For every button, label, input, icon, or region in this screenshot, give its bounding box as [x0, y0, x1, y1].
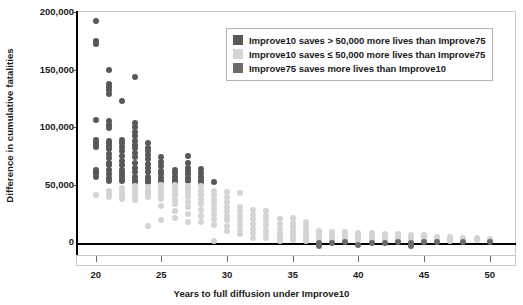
data-point [395, 239, 401, 245]
data-point [421, 239, 427, 245]
data-point [185, 153, 191, 159]
data-point [382, 240, 388, 246]
data-point [119, 98, 125, 104]
data-point [369, 240, 375, 246]
chart-legend: Improve10 saves > 50,000 more lives than… [226, 28, 493, 81]
data-point [158, 217, 164, 223]
x-axis-tick-mark [227, 256, 228, 262]
data-point [237, 190, 243, 196]
x-axis-tick-label: 30 [222, 269, 233, 280]
data-point [211, 238, 217, 244]
x-axis-tick-label: 25 [156, 269, 167, 280]
data-point [408, 240, 414, 246]
legend-item: Improve10 saves ≤ 50,000 more lives than… [233, 47, 485, 61]
data-point [316, 240, 322, 246]
data-point [277, 238, 283, 244]
y-axis-title-text: Difference in cumulative fatalities [4, 48, 15, 203]
data-point [460, 239, 466, 245]
y-axis-tick-label: 150,000 [22, 63, 74, 74]
legend-item-label: Improve10 saves > 50,000 more lives than… [249, 35, 485, 46]
data-point [132, 74, 138, 80]
data-point [119, 196, 125, 202]
data-point [329, 240, 335, 246]
data-point [172, 215, 178, 221]
x-axis-title: Years to full diffusion under Improve10 [0, 288, 523, 299]
x-axis-tick-label: 40 [353, 269, 364, 280]
data-point [106, 125, 112, 131]
x-axis-tick-label: 35 [287, 269, 298, 280]
data-point [145, 194, 151, 200]
legend-item: Improve10 saves > 50,000 more lives than… [233, 33, 485, 47]
y-axis-tick-label: 100,000 [22, 121, 74, 132]
data-point [93, 174, 99, 180]
x-axis-tick-labels: 20253035404550 [76, 269, 516, 283]
data-point [106, 91, 112, 97]
x-axis-tick-marks [76, 256, 516, 266]
y-axis-tick-label: 200,000 [22, 6, 74, 17]
x-axis-tick-mark [161, 256, 162, 262]
data-point [434, 239, 440, 245]
data-point [211, 222, 217, 228]
legend-color-swatch [233, 35, 243, 45]
data-point [132, 197, 138, 203]
data-point [303, 238, 309, 244]
data-point [342, 239, 348, 245]
data-point [172, 208, 178, 214]
data-point [93, 41, 99, 47]
data-point [185, 204, 191, 210]
y-axis-tick-labels: 050,000100,000150,000200,000 [16, 0, 74, 305]
x-axis-tick-mark [490, 256, 491, 262]
legend-color-swatch [233, 49, 243, 59]
data-point [106, 194, 112, 200]
y-axis-tick-label: 50,000 [22, 178, 74, 189]
x-axis-tick-label: 45 [419, 269, 430, 280]
data-point [487, 239, 493, 245]
data-point [93, 192, 99, 198]
data-point [93, 18, 99, 24]
data-point [290, 237, 296, 243]
data-point [474, 237, 480, 243]
legend-color-swatch [233, 63, 243, 73]
data-point [119, 178, 125, 184]
scatter-chart-figure: Difference in cumulative fatalities 050,… [0, 0, 523, 305]
data-point [145, 223, 151, 229]
data-point [355, 242, 361, 248]
legend-item: Improve75 saves more lives than Improve1… [233, 61, 485, 75]
data-point [93, 144, 99, 150]
data-point [447, 238, 453, 244]
data-point [198, 219, 204, 225]
data-point [224, 228, 230, 234]
y-axis-tick-label: 0 [22, 236, 74, 247]
data-point [106, 178, 112, 184]
x-axis-tick-label: 20 [90, 269, 101, 280]
x-axis-tick-label: 50 [484, 269, 495, 280]
data-point [106, 67, 112, 73]
legend-item-label: Improve75 saves more lives than Improve1… [249, 63, 446, 74]
x-axis-tick-mark [424, 256, 425, 262]
data-point [185, 211, 191, 217]
x-axis-tick-mark [96, 256, 97, 262]
x-axis-tick-mark [293, 256, 294, 262]
data-point [158, 203, 164, 209]
data-point [158, 196, 164, 202]
data-point [185, 219, 191, 225]
data-point [172, 201, 178, 207]
data-point [263, 235, 269, 241]
data-point [250, 235, 256, 241]
data-point [93, 117, 99, 123]
x-axis-tick-mark [358, 256, 359, 262]
data-point [211, 179, 217, 185]
data-point [237, 231, 243, 237]
legend-item-label: Improve10 saves ≤ 50,000 more lives than… [249, 49, 485, 60]
